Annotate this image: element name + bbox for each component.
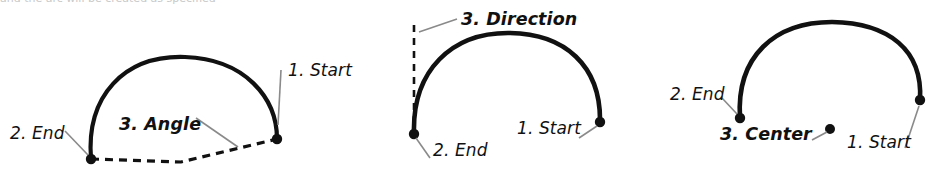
leader-line-start-direction — [579, 126, 597, 138]
label-start-angle: 1. Start — [288, 62, 352, 79]
label-direction-direction: 3. Direction — [461, 11, 577, 29]
leader-line-end-angle — [65, 131, 88, 155]
arc-construction-diagram: and the arc will be created as specified — [0, 0, 935, 175]
label-end-center: 2. End — [670, 86, 725, 103]
label-start-direction: 1. Start — [517, 120, 581, 137]
leader-line-angle-angle — [196, 118, 238, 147]
label-angle-angle: 3. Angle — [119, 116, 201, 134]
leader-line-start-angle — [278, 70, 281, 125]
figure-arc-by-angle — [65, 57, 282, 164]
start-point-marker-angle — [272, 134, 282, 144]
angle-guide-dashed — [91, 139, 277, 162]
label-end-direction: 2. End — [433, 142, 488, 159]
leader-line-direction-direction — [419, 19, 457, 32]
start-point-marker-center — [915, 95, 925, 105]
arc-stroke-center — [740, 22, 920, 118]
label-start-center: 1. Start — [847, 134, 911, 151]
leader-line-center-center — [812, 132, 827, 140]
leader-line-end-direction — [416, 138, 430, 158]
label-end-angle: 2. End — [10, 125, 65, 142]
end-point-marker-direction — [409, 129, 419, 139]
label-center-center: 3. Center — [720, 126, 812, 144]
arc-stroke-angle — [91, 57, 277, 159]
